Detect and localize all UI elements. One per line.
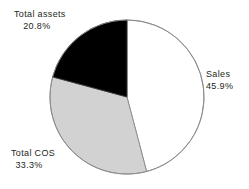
pie-chart: Total assets 20.8% Sales 45.9% Total COS… <box>0 0 249 189</box>
pie-label-total-assets: Total assets 20.8% <box>14 9 66 32</box>
pie-label-sales: Sales 45.9% <box>206 69 233 92</box>
pie-label-sales-value: 45.9% <box>206 81 233 93</box>
pie-label-sales-name: Sales <box>206 69 233 81</box>
pie-label-total-assets-value: 20.8% <box>14 21 66 33</box>
pie-label-total-cos-value: 33.3% <box>11 160 55 172</box>
pie-label-total-cos: Total COS 33.3% <box>11 148 55 171</box>
pie-label-total-assets-name: Total assets <box>14 9 66 21</box>
pie-label-total-cos-name: Total COS <box>11 148 55 160</box>
